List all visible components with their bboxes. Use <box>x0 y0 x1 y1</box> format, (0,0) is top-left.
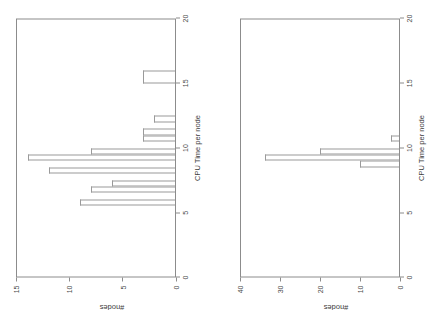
y-tick <box>16 277 17 281</box>
x-tick-label: 20 <box>406 14 413 22</box>
x-tick <box>400 212 404 213</box>
x-tick <box>400 277 404 278</box>
y-tick-label: 5 <box>119 285 126 289</box>
y-tick <box>69 277 70 281</box>
histogram-bar <box>112 180 175 186</box>
y-tick <box>400 277 401 281</box>
x-axis-title-right: CPU Time per node <box>417 18 426 277</box>
y-tick-label: 30 <box>277 285 284 293</box>
x-tick-label: 10 <box>406 144 413 152</box>
x-tick-label: 5 <box>182 210 189 214</box>
y-tick-label: 15 <box>13 285 20 293</box>
plot-area-right <box>240 18 400 277</box>
y-axis-title-left: #nodes <box>100 303 125 311</box>
x-tick-label: 10 <box>182 144 189 152</box>
x-tick-label: 15 <box>406 79 413 87</box>
y-tick <box>240 277 241 281</box>
x-tick-label: 0 <box>182 275 189 279</box>
histogram-bar <box>91 148 175 154</box>
plot-area-left <box>16 18 176 277</box>
rotated-plot-left: 05101520 CPU Time per node 051015 #nodes <box>0 0 224 311</box>
x-tick <box>176 277 180 278</box>
histogram-bar <box>320 148 399 154</box>
bar-series-left <box>17 19 175 276</box>
histogram-bar <box>360 160 400 166</box>
y-tick <box>320 277 321 281</box>
histogram-bar <box>391 135 399 141</box>
x-tick <box>176 147 180 148</box>
y-tick-label: 0 <box>397 285 404 289</box>
x-tick-label: 15 <box>182 79 189 87</box>
histogram-bar <box>80 199 175 205</box>
x-tick <box>400 147 404 148</box>
y-tick-label: 10 <box>66 285 73 293</box>
x-tick-label: 5 <box>406 210 413 214</box>
histogram-bar <box>28 154 175 160</box>
histogram-bar <box>143 70 175 83</box>
histogram-bar <box>265 154 399 160</box>
figure-canvas: 05101520 CPU Time per node 051015 #nodes… <box>0 0 448 311</box>
x-tick <box>176 82 180 83</box>
y-tick-label: 10 <box>357 285 364 293</box>
x-tick <box>400 18 404 19</box>
y-tick-label: 40 <box>237 285 244 293</box>
y-tick <box>280 277 281 281</box>
histogram-panel-left: 05101520 CPU Time per node 051015 #nodes <box>0 0 224 311</box>
y-tick <box>360 277 361 281</box>
x-tick <box>176 18 180 19</box>
x-tick <box>400 82 404 83</box>
histogram-bar <box>154 115 175 121</box>
y-tick-label: 20 <box>317 285 324 293</box>
histogram-bar <box>143 128 175 134</box>
y-axis-title-right: #nodes <box>324 303 349 311</box>
histogram-bar <box>91 186 175 192</box>
y-tick <box>122 277 123 281</box>
x-tick-label: 20 <box>182 14 189 22</box>
histogram-panel-right: 05101520 CPU Time per node 010203040 #no… <box>224 0 448 311</box>
x-tick-label: 0 <box>406 275 413 279</box>
y-tick-label: 0 <box>173 285 180 289</box>
rotated-plot-right: 05101520 CPU Time per node 010203040 #no… <box>224 0 448 311</box>
x-tick <box>176 212 180 213</box>
histogram-bar <box>143 135 175 141</box>
y-tick <box>176 277 177 281</box>
histogram-bar <box>49 167 175 173</box>
bar-series-right <box>241 19 399 276</box>
x-axis-title-left: CPU Time per node <box>193 18 202 277</box>
